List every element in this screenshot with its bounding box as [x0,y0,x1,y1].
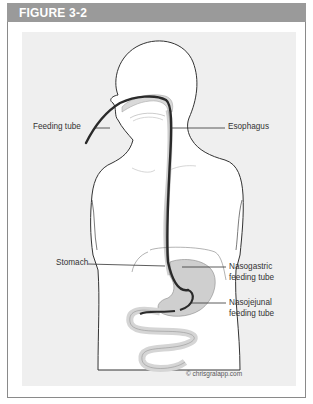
label-nasojejunal-line1: Nasojejunal [229,298,272,308]
credit-text: © chrisgralapp.com [186,370,242,377]
label-nasojejunal-line2: feeding tube [229,309,274,319]
label-feeding-tube: Feeding tube [33,122,81,132]
label-esophagus: Esophagus [228,122,269,132]
anatomy-illustration [0,0,313,404]
label-nasogastric-line2: feeding tube [229,273,274,283]
label-nasogastric-line1: Nasogastric [229,262,272,272]
label-stomach: Stomach [56,258,88,268]
